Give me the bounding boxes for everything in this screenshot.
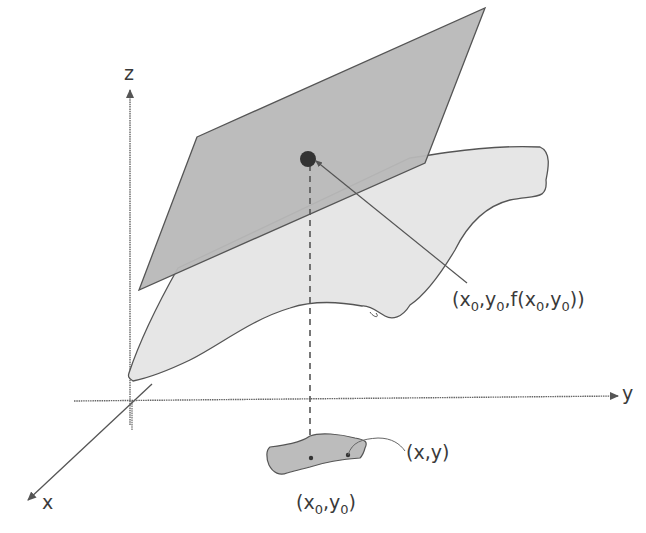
subscript: 0: [562, 299, 570, 314]
tangent-plane-diagram: z y x (x0,y0,f(x0,y0)) (x,y) (x0,y0): [0, 0, 646, 533]
label-part: ,f(x: [505, 288, 536, 310]
y-axis: [74, 396, 618, 401]
z-axis-label: z: [124, 64, 134, 83]
label-part: (x: [296, 491, 315, 513]
subscript: 0: [471, 299, 479, 314]
label-part: )): [570, 288, 585, 310]
label-part: ,y: [544, 288, 561, 310]
diagram-svg: [0, 0, 646, 533]
base-point-label: (x0,y0): [296, 493, 356, 512]
subscript: 0: [536, 299, 544, 314]
y-axis-label: y: [622, 384, 633, 403]
domain-point-label: (x,y): [406, 443, 449, 462]
base-point: [309, 456, 313, 460]
x-axis: [28, 384, 152, 500]
label-part: ,y: [323, 491, 340, 513]
surface-fold: [370, 312, 377, 317]
subscript: 0: [315, 502, 323, 517]
label-part: ): [349, 491, 356, 513]
domain-region: [267, 434, 366, 474]
tangent-point-label: (x0,y0,f(x0,y0)): [452, 290, 585, 309]
label-part: (x: [452, 288, 471, 310]
subscript: 0: [340, 502, 348, 517]
tangent-point: [300, 151, 316, 167]
x-axis-label: x: [42, 493, 53, 512]
subscript: 0: [496, 299, 504, 314]
label-part: ,y: [479, 288, 496, 310]
